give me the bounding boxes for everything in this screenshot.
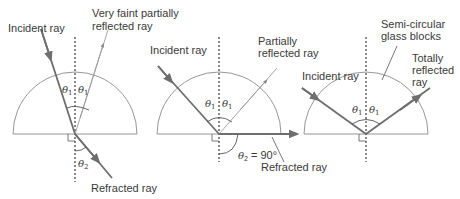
refraction-diagram: Incident ray Very faint partially reflec… xyxy=(0,0,460,199)
right-angle-mark xyxy=(359,134,366,141)
theta2-label: θ2 xyxy=(78,158,89,171)
reflected-ray-label-1: Very faint partially xyxy=(92,7,179,19)
refracted-ray-label: Refracted ray xyxy=(91,182,158,194)
incident-arrow-icon xyxy=(158,66,170,80)
incident-arrow-icon xyxy=(302,88,316,98)
panel-below-critical-angle: Incident ray Very faint partially reflec… xyxy=(8,7,179,194)
glass-block-label-1: Semi-circular xyxy=(381,18,446,30)
reflected-ray-label-1: Partially xyxy=(258,35,298,47)
theta1-right-label: θ1 xyxy=(369,104,380,117)
right-angle-mark xyxy=(68,134,75,141)
reflected-ray-label-2: reflected ray xyxy=(258,47,319,59)
right-angle-mark xyxy=(212,134,219,141)
panel-total-internal-reflection: Semi-circular glass blocks Incident ray … xyxy=(302,18,454,162)
reflected-ray-label-1: Totally xyxy=(412,52,444,64)
theta1-left-label: θ1 xyxy=(205,98,216,111)
incident-ray-label: Incident ray xyxy=(8,22,65,34)
reflected-arrow-icon xyxy=(400,97,418,110)
theta1-left-label: θ1 xyxy=(62,84,73,97)
block-pointer xyxy=(382,46,397,80)
theta1-left-label: θ1 xyxy=(352,104,363,117)
theta1-right-label: θ1 xyxy=(222,98,233,111)
theta1-right-label: θ1 xyxy=(78,84,89,97)
reflected-ray-label-2: reflected xyxy=(412,64,454,76)
glass-block-label-2: glass blocks xyxy=(381,30,441,42)
theta1-arc xyxy=(67,106,89,110)
reflected-ray-label-3: ray xyxy=(412,76,428,88)
reflected-arrow-icon xyxy=(80,45,103,118)
reflected-arrow-icon xyxy=(240,81,266,110)
theta2-label: θ2 = 90° xyxy=(238,149,277,162)
incident-ray-label: Incident ray xyxy=(150,44,207,56)
refracted-ray-label: Refracted ray xyxy=(261,161,328,173)
reflected-ray-label-2: reflected ray xyxy=(92,20,153,32)
incident-ray-label: Incident ray xyxy=(302,70,359,82)
theta2-arc xyxy=(219,134,238,154)
theta2-arc xyxy=(75,147,86,151)
panel-at-critical-angle: Incident ray Partially reflected ray Ref… xyxy=(150,35,328,173)
